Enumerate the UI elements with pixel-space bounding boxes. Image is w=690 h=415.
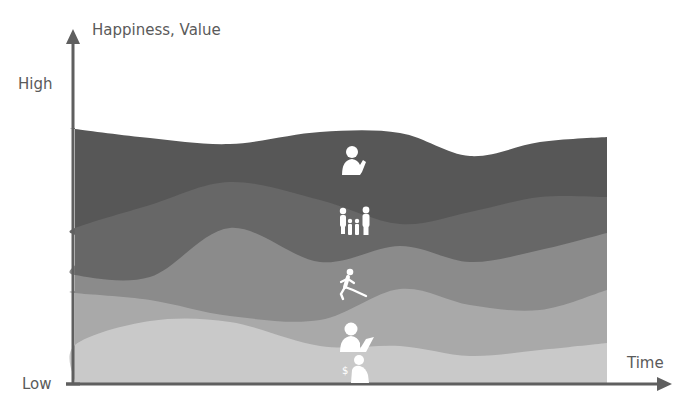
y-axis-arrow-icon bbox=[66, 29, 80, 44]
stream-layers bbox=[69, 128, 607, 384]
y-axis-low-label: Low bbox=[22, 375, 52, 393]
x-axis-title: Time bbox=[627, 354, 664, 372]
streamgraph-chart: $ bbox=[0, 0, 690, 415]
svg-text:$: $ bbox=[342, 365, 348, 376]
y-axis-high-label: High bbox=[18, 75, 52, 93]
y-axis-title: Happiness, Value bbox=[92, 21, 221, 39]
x-axis-arrow-icon bbox=[657, 377, 672, 391]
